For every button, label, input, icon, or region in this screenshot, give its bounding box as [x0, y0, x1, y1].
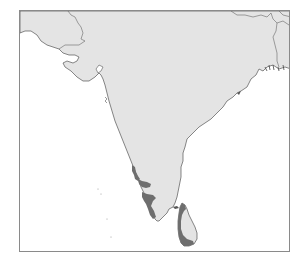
- lakshadweep-islet: [101, 194, 102, 195]
- lakshadweep-islet: [98, 189, 99, 190]
- map-frame: [19, 10, 290, 252]
- lakshadweep-islet: [107, 219, 108, 220]
- lakshadweep-islet: [111, 237, 112, 238]
- map-canvas: [20, 11, 290, 252]
